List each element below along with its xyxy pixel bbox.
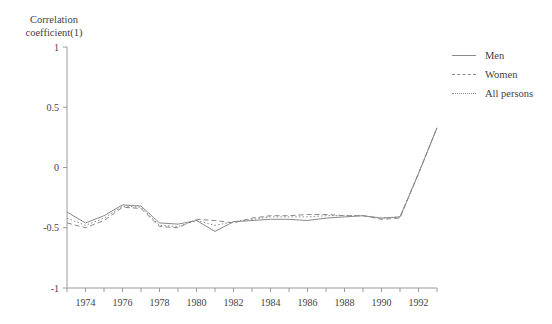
x-axis-tick-label: 1992 — [409, 297, 429, 308]
x-axis-tick-label: 1990 — [372, 297, 392, 308]
x-axis-tick-label: 1976 — [113, 297, 133, 308]
x-axis-tick-label: 1986 — [298, 297, 318, 308]
x-axis-tick-label: 1980 — [187, 297, 207, 308]
series-line-all-persons — [67, 128, 437, 227]
y-axis-tick-label: -1 — [51, 283, 59, 294]
legend-item-men[interactable]: Men — [452, 46, 533, 65]
x-axis-tick-label: 1984 — [261, 297, 281, 308]
x-axis-tick-label: 1988 — [335, 297, 355, 308]
x-axis-tick-label: 1978 — [150, 297, 170, 308]
chart-container: Correlation coefficient(1) 10.50-0.5-119… — [0, 0, 552, 324]
legend-label-men: Men — [485, 50, 504, 61]
legend-item-all-persons[interactable]: All persons — [452, 84, 533, 103]
y-axis-tick-label: 0 — [54, 162, 59, 173]
legend-swatch-men-icon — [452, 52, 476, 60]
x-axis-tick-label: 1982 — [224, 297, 244, 308]
series-line-women — [67, 128, 437, 228]
y-axis-tick-label: 0.5 — [47, 102, 60, 113]
legend-label-all-persons: All persons — [485, 88, 533, 99]
legend-swatch-all-persons-icon — [452, 90, 476, 98]
legend-label-women: Women — [485, 69, 517, 80]
series-line-men — [67, 128, 437, 232]
y-axis-tick-label: 1 — [54, 42, 59, 53]
legend-swatch-women-icon — [452, 71, 476, 79]
legend-item-women[interactable]: Women — [452, 65, 533, 84]
y-axis-tick-label: -0.5 — [43, 222, 59, 233]
x-axis-tick-label: 1974 — [76, 297, 96, 308]
chart-legend: Men Women All persons — [452, 46, 533, 103]
